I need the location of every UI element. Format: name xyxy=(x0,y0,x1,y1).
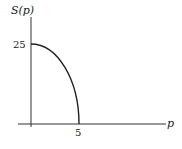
x-axis-label: p xyxy=(167,117,174,130)
x-tick-5: 5 xyxy=(75,127,81,138)
y-tick-25: 25 xyxy=(13,39,26,50)
y-axis-label: S(p) xyxy=(11,4,34,17)
chart: S(p) 25 5 p xyxy=(0,0,182,149)
supply-curve xyxy=(31,44,79,124)
